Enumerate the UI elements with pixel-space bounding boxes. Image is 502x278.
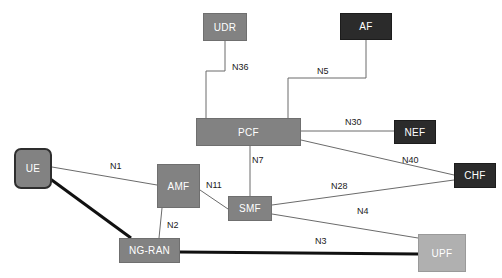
node-ue-label: UE bbox=[26, 163, 41, 174]
edge-label-n36: N36 bbox=[232, 62, 249, 72]
node-upf-label: UPF bbox=[432, 248, 453, 259]
edge-n36[interactable] bbox=[206, 41, 225, 118]
node-ng-ran[interactable]: NG-RAN bbox=[119, 238, 180, 263]
edge-n4[interactable] bbox=[272, 214, 418, 238]
edge-n5[interactable] bbox=[288, 40, 366, 118]
edge-n1[interactable] bbox=[52, 167, 157, 185]
edge-label-n4: N4 bbox=[357, 206, 369, 216]
edge-n40[interactable] bbox=[301, 140, 454, 175]
node-upf[interactable]: UPF bbox=[418, 234, 466, 272]
edge-label-n30: N30 bbox=[345, 117, 362, 127]
edge-label-n28: N28 bbox=[331, 181, 348, 191]
node-chf-label: CHF bbox=[464, 170, 485, 181]
node-af[interactable]: AF bbox=[340, 13, 392, 40]
node-smf[interactable]: SMF bbox=[228, 196, 272, 221]
node-pcf[interactable]: PCF bbox=[196, 118, 301, 146]
node-chf[interactable]: CHF bbox=[454, 163, 496, 188]
node-amf-label: AMF bbox=[167, 181, 189, 192]
edge-label-n11: N11 bbox=[206, 180, 222, 190]
node-amf[interactable]: AMF bbox=[157, 164, 200, 208]
edge-n3[interactable] bbox=[180, 252, 418, 254]
edge-n11[interactable] bbox=[200, 190, 228, 209]
edge-n2[interactable] bbox=[159, 208, 162, 238]
edge-label-n40: N40 bbox=[402, 155, 419, 165]
node-nef[interactable]: NEF bbox=[394, 120, 436, 144]
edge-ue-ngran[interactable] bbox=[49, 178, 131, 238]
node-ng-ran-label: NG-RAN bbox=[129, 245, 170, 256]
network-architecture-diagram: UDR AF PCF NEF CHF UE AMF SMF NG-RAN UPF… bbox=[0, 0, 502, 278]
edge-label-n1: N1 bbox=[110, 161, 122, 171]
edge-label-n5: N5 bbox=[317, 66, 329, 76]
node-af-label: AF bbox=[359, 21, 372, 32]
edge-label-n7: N7 bbox=[252, 155, 264, 165]
node-ue[interactable]: UE bbox=[14, 148, 52, 189]
node-pcf-label: PCF bbox=[238, 127, 259, 138]
edge-label-n2: N2 bbox=[167, 220, 179, 230]
node-nef-label: NEF bbox=[405, 127, 426, 138]
node-udr-label: UDR bbox=[214, 22, 237, 33]
edge-n28[interactable] bbox=[272, 180, 454, 205]
node-smf-label: SMF bbox=[239, 203, 261, 214]
edge-label-n3: N3 bbox=[315, 236, 327, 246]
node-udr[interactable]: UDR bbox=[203, 13, 247, 41]
